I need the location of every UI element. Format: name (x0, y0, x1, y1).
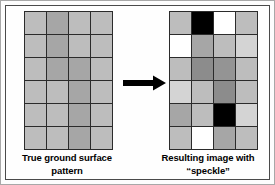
grid-cell (236, 12, 257, 34)
grid-cell (214, 58, 235, 80)
figure-container: True ground surface pattern Resulting im… (0, 0, 275, 185)
panel-true-ground-surface: True ground surface pattern (8, 6, 126, 179)
caption-line-2: “speckle” (149, 165, 267, 178)
grid-cell (91, 127, 112, 149)
grid-cell (91, 104, 112, 126)
grid-cell (69, 81, 90, 103)
caption-true-ground-surface: True ground surface pattern (8, 152, 126, 177)
grid-cell (47, 81, 68, 103)
grid-cell (91, 35, 112, 57)
grid-cell (25, 81, 46, 103)
grid-cell (25, 127, 46, 149)
panel-resulting-image-with-speckle: Resulting image with “speckle” (149, 6, 267, 179)
grid-cell (192, 58, 213, 80)
grid-cell (25, 12, 46, 34)
grid-cell (192, 35, 213, 57)
grid-cell (25, 58, 46, 80)
figure-frame: True ground surface pattern Resulting im… (5, 5, 270, 180)
grid-cell (47, 58, 68, 80)
grid-cell (236, 104, 257, 126)
grid-cell (236, 35, 257, 57)
grid-cell (69, 12, 90, 34)
grid-cell (236, 58, 257, 80)
grid-cell (47, 35, 68, 57)
grid-cell (214, 35, 235, 57)
grid-cell (192, 81, 213, 103)
grid-cell (214, 104, 235, 126)
caption-resulting-image-with-speckle: Resulting image with “speckle” (149, 152, 267, 177)
grid-cell (170, 81, 191, 103)
grid-cell (192, 104, 213, 126)
grid-cell (236, 81, 257, 103)
grid-cell (69, 104, 90, 126)
grid-wrap-right (169, 11, 258, 150)
grid-cell (47, 12, 68, 34)
grid-cell (192, 12, 213, 34)
grid-cell (192, 127, 213, 149)
grid-cell (69, 58, 90, 80)
grid-cell (170, 104, 191, 126)
grid-cell (170, 58, 191, 80)
grid-cell (25, 35, 46, 57)
grid-cell (170, 127, 191, 149)
grid-cell (69, 35, 90, 57)
grid-wrap-left (24, 11, 113, 150)
grid-cell (69, 127, 90, 149)
grid-cell (47, 104, 68, 126)
grid-cell (47, 127, 68, 149)
grid-cell (91, 58, 112, 80)
grid-cell (91, 12, 112, 34)
grid-cell (214, 127, 235, 149)
grid-cell (170, 35, 191, 57)
caption-line-1: Resulting image with (149, 152, 267, 165)
grid-cell (170, 12, 191, 34)
grid-cell (91, 81, 112, 103)
grid-true-ground-surface (24, 11, 113, 150)
grid-cell (236, 127, 257, 149)
grid-cell (214, 81, 235, 103)
grid-cell (25, 104, 46, 126)
caption-line-2: pattern (8, 165, 126, 178)
grid-resulting-image-with-speckle (169, 11, 258, 150)
grid-cell (214, 12, 235, 34)
caption-line-1: True ground surface (8, 152, 126, 165)
